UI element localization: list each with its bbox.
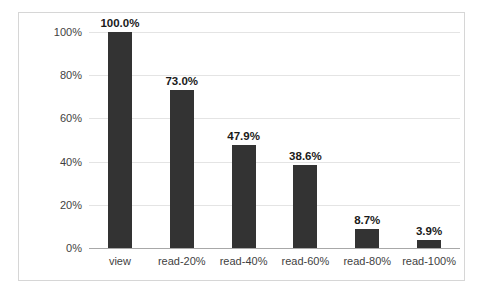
y-axis-tick-label: 20% — [60, 199, 82, 211]
cut-off-caption-text: — ⌐ ·· ⌐ ·· ⌐ ·· ⌐ ·· — [2, 0, 113, 3]
y-axis-tick-label: 40% — [60, 156, 82, 168]
bar[interactable] — [232, 145, 256, 248]
x-axis-category-label: read-40% — [220, 255, 268, 267]
chart-frame[interactable]: 0%20%40%60%80%100% 100.0%view73.0%read-2… — [18, 12, 465, 281]
bar-group: 73.0%read-20% — [151, 32, 213, 248]
bar[interactable] — [108, 32, 132, 248]
bar[interactable] — [170, 90, 194, 248]
y-axis-tick-label: 100% — [54, 26, 82, 38]
x-axis-category-label: view — [109, 255, 131, 267]
bar[interactable] — [355, 229, 379, 248]
y-axis-tick-label: 60% — [60, 112, 82, 124]
plot-area: 0%20%40%60%80%100% 100.0%view73.0%read-2… — [89, 32, 460, 248]
bar-data-label: 100.0% — [100, 17, 139, 29]
y-axis-tick-label: 0% — [66, 242, 82, 254]
y-axis-tick-label: 80% — [60, 69, 82, 81]
bar-group: 47.9%read-40% — [213, 32, 275, 248]
bar-data-label: 73.0% — [165, 75, 198, 87]
cut-off-caption-sliver: — ⌐ ·· ⌐ ·· ⌐ ·· ⌐ ·· — [0, 0, 486, 7]
x-axis-category-label: read-20% — [158, 255, 206, 267]
bar-group: 38.6%read-60% — [275, 32, 337, 248]
x-axis-category-label: read-80% — [343, 255, 391, 267]
bar-group: 8.7%read-80% — [336, 32, 398, 248]
bar[interactable] — [417, 240, 441, 248]
axis-baseline — [89, 248, 460, 249]
bar[interactable] — [293, 165, 317, 248]
bar-data-label: 8.7% — [354, 214, 380, 226]
bar-series: 100.0%view73.0%read-20%47.9%read-40%38.6… — [89, 32, 460, 248]
bar-data-label: 47.9% — [227, 130, 260, 142]
x-axis-category-label: read-60% — [282, 255, 330, 267]
bar-group: 3.9%read-100% — [398, 32, 460, 248]
bar-data-label: 38.6% — [289, 150, 322, 162]
bar-data-label: 3.9% — [416, 225, 442, 237]
bar-group: 100.0%view — [89, 32, 151, 248]
x-axis-category-label: read-100% — [402, 255, 456, 267]
